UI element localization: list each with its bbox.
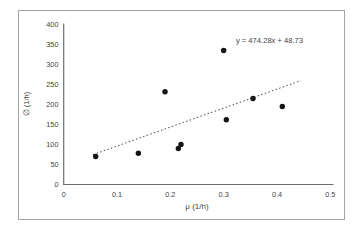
trendline-equation: y = 474.28x + 48.73 bbox=[197, 36, 342, 45]
data-point bbox=[280, 104, 285, 109]
data-point bbox=[250, 96, 255, 101]
y-tick-label: 350 bbox=[46, 40, 58, 49]
x-tick-label: 0 bbox=[62, 190, 66, 199]
chart-frame: 05010015020025030035040000.10.20.30.40.5… bbox=[18, 10, 345, 220]
y-tick-label: 300 bbox=[46, 60, 58, 69]
y-tick-label: 200 bbox=[46, 100, 58, 109]
data-point bbox=[93, 154, 98, 159]
data-point bbox=[178, 142, 183, 147]
chart-screenshot: 05010015020025030035040000.10.20.30.40.5… bbox=[0, 0, 364, 234]
data-point bbox=[136, 151, 141, 156]
x-tick-label: 0.5 bbox=[325, 190, 335, 199]
trendline bbox=[93, 81, 301, 155]
x-tick-label: 0.1 bbox=[112, 190, 122, 199]
y-tick-label: 250 bbox=[46, 80, 58, 89]
y-tick-label: 0 bbox=[54, 180, 58, 189]
y-tick-label: 50 bbox=[50, 160, 58, 169]
data-point bbox=[224, 117, 229, 122]
y-axis-title: ∅ (1/h) bbox=[22, 69, 34, 139]
data-point bbox=[221, 48, 226, 53]
data-point bbox=[162, 89, 167, 94]
x-tick-label: 0.4 bbox=[272, 190, 282, 199]
y-tick-label: 100 bbox=[46, 140, 58, 149]
x-tick-label: 0.3 bbox=[219, 190, 229, 199]
y-tick-label: 150 bbox=[46, 120, 58, 129]
y-tick-label: 400 bbox=[46, 20, 58, 29]
x-tick-label: 0.2 bbox=[165, 190, 175, 199]
x-axis-title: μ (1/h) bbox=[137, 202, 257, 211]
